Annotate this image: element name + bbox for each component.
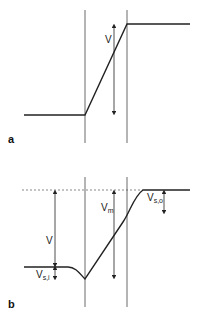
label-vso: Vs,o [147,193,163,204]
label-vm: Vm [101,203,114,214]
potential-profile-diagram [0,0,199,316]
label-v-a: V [105,35,112,45]
panel-label-a: a [8,133,14,145]
panel-a [24,10,190,143]
panel-label-b: b [8,298,15,310]
label-vsi: Vs,i [36,270,50,281]
label-v-b: V [46,236,53,246]
